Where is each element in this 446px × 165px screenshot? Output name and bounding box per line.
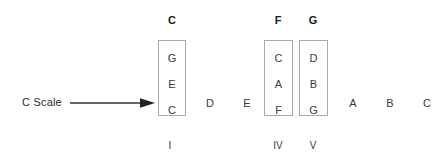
chord-tone: B xyxy=(300,79,327,90)
chord-name-header: F xyxy=(263,14,293,26)
roman-numeral: IV xyxy=(266,140,290,151)
chord-tone: A xyxy=(265,79,292,90)
scale-note: B xyxy=(382,98,398,109)
chord-box: GEC xyxy=(158,40,186,116)
chord-scale-diagram: C Scale CGECIFCAFIVGDBGV DEABC xyxy=(0,0,446,165)
chord-tone: E xyxy=(159,79,185,90)
roman-numeral: I xyxy=(158,140,182,151)
chord-name-header: C xyxy=(157,14,187,26)
chord-tone: G xyxy=(159,53,185,64)
chord-tone: C xyxy=(265,53,292,64)
chord-tone: D xyxy=(300,53,327,64)
chord-box: CAF xyxy=(264,40,293,116)
chord-tone: G xyxy=(300,105,327,116)
chord-box: DBG xyxy=(299,40,328,116)
scale-note: A xyxy=(345,98,361,109)
chord-name-header: G xyxy=(298,14,328,26)
right-arrow-icon xyxy=(70,97,156,109)
chord-tone: F xyxy=(265,105,292,116)
scale-note: E xyxy=(239,98,255,109)
scale-note: C xyxy=(419,98,435,109)
chord-tone: C xyxy=(159,105,185,116)
scale-note: D xyxy=(202,98,218,109)
scale-label: C Scale xyxy=(22,96,62,108)
roman-numeral: V xyxy=(301,140,325,151)
